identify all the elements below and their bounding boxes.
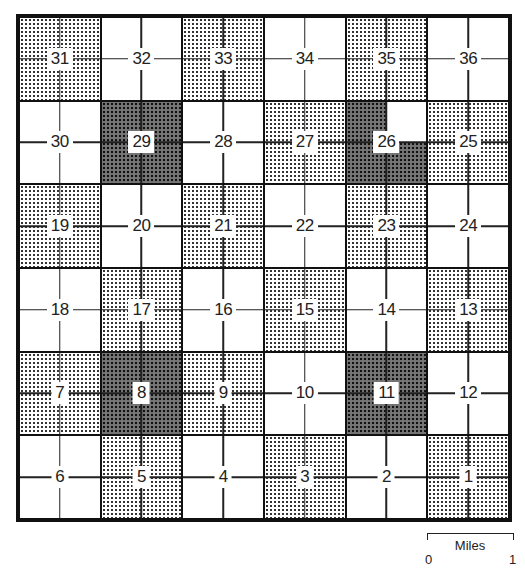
section-cell: 18 (19, 268, 101, 352)
section-cell: 17 (101, 268, 183, 352)
section-number: 23 (374, 215, 400, 237)
section-number: 6 (51, 466, 68, 488)
section-cell: 27 (264, 101, 346, 185)
section-number: 9 (215, 382, 232, 404)
section-cell: 21 (182, 184, 264, 268)
section-number: 13 (455, 299, 481, 321)
section-cell: 16 (182, 268, 264, 352)
section-number: 36 (455, 48, 481, 70)
section-cell: 30 (19, 101, 101, 185)
section-cell: 8 (101, 352, 183, 436)
section-number: 14 (374, 299, 400, 321)
section-cell: 25 (427, 101, 509, 185)
section-cell: 28 (182, 101, 264, 185)
section-number: 27 (292, 131, 318, 153)
section-number: 1 (460, 466, 477, 488)
section-number: 18 (47, 299, 73, 321)
section-number: 8 (133, 382, 150, 404)
section-cell: 13 (427, 268, 509, 352)
section-cell: 33 (182, 17, 264, 101)
section-number: 34 (292, 48, 318, 70)
scale-bar: Miles 0 1 (420, 528, 520, 578)
section-number: 19 (47, 215, 73, 237)
section-number: 5 (133, 466, 150, 488)
township-grid: 3132333435363029282726251920212223241817… (16, 14, 512, 522)
section-cell: 5 (101, 435, 183, 519)
section-cell: 20 (101, 184, 183, 268)
section-number: 4 (215, 466, 232, 488)
section-cell: 34 (264, 17, 346, 101)
section-number: 7 (51, 382, 68, 404)
section-number: 20 (129, 215, 155, 237)
section-number: 2 (378, 466, 395, 488)
section-cell: 35 (346, 17, 428, 101)
section-cell: 32 (101, 17, 183, 101)
section-number: 28 (210, 131, 236, 153)
section-cell: 31 (19, 17, 101, 101)
section-number: 3 (296, 466, 313, 488)
section-cell: 11 (346, 352, 428, 436)
section-number: 30 (47, 131, 73, 153)
section-cell: 22 (264, 184, 346, 268)
section-cell: 19 (19, 184, 101, 268)
section-cell: 9 (182, 352, 264, 436)
section-cell: 10 (264, 352, 346, 436)
section-cell: 7 (19, 352, 101, 436)
section-number: 33 (210, 48, 236, 70)
section-cell: 15 (264, 268, 346, 352)
section-cell: 4 (182, 435, 264, 519)
section-cell: 23 (346, 184, 428, 268)
section-number: 12 (455, 382, 481, 404)
section-number: 17 (129, 299, 155, 321)
section-number: 26 (374, 131, 400, 153)
section-cell: 29 (101, 101, 183, 185)
section-number: 35 (374, 48, 400, 70)
scale-start-label: 0 (425, 552, 432, 567)
section-cell: 3 (264, 435, 346, 519)
section-cell: 2 (346, 435, 428, 519)
section-number: 29 (129, 131, 155, 153)
scale-end-label: 1 (509, 552, 516, 567)
section-cell: 36 (427, 17, 509, 101)
section-number: 15 (292, 299, 318, 321)
section-number: 10 (292, 382, 318, 404)
section-cell: 24 (427, 184, 509, 268)
section-cell: 14 (346, 268, 428, 352)
section-cell: 1 (427, 435, 509, 519)
section-number: 22 (292, 215, 318, 237)
section-number: 21 (210, 215, 236, 237)
section-number: 16 (210, 299, 236, 321)
section-number: 11 (374, 382, 399, 404)
section-cell: 12 (427, 352, 509, 436)
section-number: 25 (455, 131, 481, 153)
section-cell: 6 (19, 435, 101, 519)
scale-title: Miles (420, 538, 520, 553)
section-number: 32 (129, 48, 155, 70)
section-number: 24 (455, 215, 481, 237)
section-cell: 26 (346, 101, 428, 185)
section-number: 31 (47, 48, 73, 70)
